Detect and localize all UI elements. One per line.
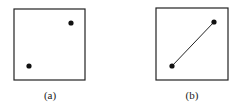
panel-a-caption: (a) <box>30 89 70 101</box>
panel-a-frame <box>14 9 85 80</box>
panel-b <box>156 8 228 80</box>
panel-a-point-2 <box>68 20 73 25</box>
panel-b-caption: (b) <box>172 89 212 101</box>
panel-b-frame <box>156 8 228 80</box>
panel-a-point-1 <box>26 63 31 68</box>
panel-a <box>14 9 85 80</box>
panel-b-point-2 <box>211 19 216 24</box>
panel-b-connecting-line <box>172 22 214 66</box>
panel-b-point-1 <box>169 63 174 68</box>
